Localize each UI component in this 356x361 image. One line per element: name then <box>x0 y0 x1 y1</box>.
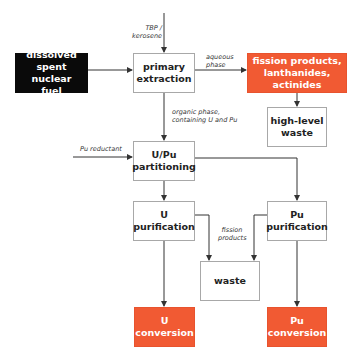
dissolved-spent-nuclear-fuel-box: dissolved spent nuclear fuel <box>15 53 88 93</box>
box-label: primary extraction <box>137 61 192 85</box>
u-pu-partitioning-box: U/Pu partitioning <box>133 141 195 181</box>
u-purification-box: U purification <box>133 201 195 241</box>
fission-products-flow-label: fission products <box>218 226 246 242</box>
box-label: U conversion <box>135 315 193 339</box>
fission-products-box: fission products, lanthanides, actinides <box>247 53 347 93</box>
high-level-waste-box: high-level waste <box>267 107 327 147</box>
primary-extraction-box: primary extraction <box>133 53 195 93</box>
pu-reductant-label: Pu reductant <box>80 145 122 153</box>
pu-conversion-box: Pu conversion <box>267 307 327 347</box>
waste-box: waste <box>200 261 260 301</box>
box-label: Pu conversion <box>268 315 326 339</box>
box-label: dissolved spent nuclear fuel <box>16 49 87 97</box>
organic-phase-label: organic phase, containing U and Pu <box>172 108 237 124</box>
pu-purification-box: Pu purification <box>267 201 327 241</box>
box-label: waste <box>214 275 246 287</box>
reprocessing-flow-diagram: dissolved spent nuclear fuel primary ext… <box>0 0 356 361</box>
box-label: Pu purification <box>266 209 328 233</box>
box-label: U/Pu partitioning <box>132 149 196 173</box>
box-label: high-level waste <box>270 115 323 139</box>
tbp-kerosene-label: TBP / kerosene <box>132 24 162 40</box>
box-label: fission products, lanthanides, actinides <box>252 55 341 91</box>
aqueous-phase-label: aqueous phase <box>206 53 234 69</box>
u-conversion-box: U conversion <box>134 307 195 347</box>
box-label: U purification <box>133 209 195 233</box>
